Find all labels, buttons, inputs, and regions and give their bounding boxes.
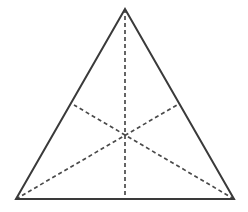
triangle-median-diagram (0, 0, 248, 212)
figure-canvas (0, 0, 248, 212)
